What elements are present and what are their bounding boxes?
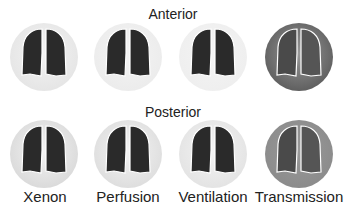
scan-anterior-transmission [265,23,333,91]
scan-anterior-ventilation [179,23,247,91]
label-ventilation: Ventilation [168,188,258,205]
posterior-heading: Posterior [0,104,346,120]
scan-anterior-xenon [10,23,78,91]
label-perfusion: Perfusion [83,188,173,205]
scan-posterior-perfusion [94,120,162,188]
scan-posterior-transmission [265,120,333,188]
anterior-heading: Anterior [0,6,346,22]
scan-posterior-ventilation [179,120,247,188]
scan-posterior-xenon [10,120,78,188]
scan-anterior-perfusion [94,23,162,91]
label-xenon: Xenon [0,188,90,205]
label-transmission: Transmission [254,188,344,205]
